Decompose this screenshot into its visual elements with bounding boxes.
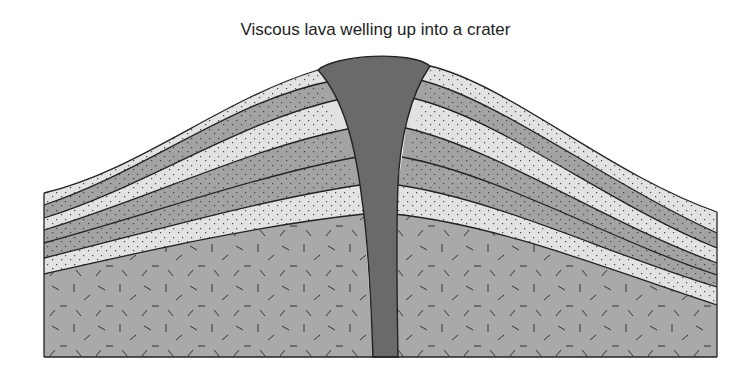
- right-flank: [394, 66, 717, 357]
- left-flank: [44, 70, 373, 357]
- volcano-cross-section: [0, 0, 751, 375]
